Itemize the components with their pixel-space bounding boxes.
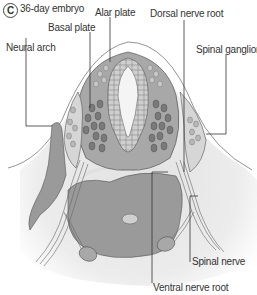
label-neural-arch: Neural arch bbox=[6, 42, 56, 53]
label-ventral-nerve-root: Ventral nerve root bbox=[153, 282, 228, 293]
label-dorsal-nerve-root: Dorsal nerve root bbox=[150, 8, 223, 19]
label-spinal-ganglion: Spinal ganglion bbox=[196, 44, 257, 55]
label-spinal-nerve: Spinal nerve bbox=[192, 256, 245, 267]
panel-letter-badge: C bbox=[3, 3, 18, 18]
label-basal-plate: Basal plate bbox=[48, 22, 95, 33]
panel-title: 36-day embryo bbox=[20, 3, 84, 14]
notochord-remnant bbox=[122, 214, 138, 224]
label-alar-plate: Alar plate bbox=[95, 7, 135, 18]
